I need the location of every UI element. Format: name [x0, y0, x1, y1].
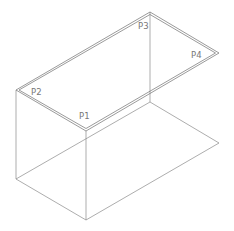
label-p3: P3 — [138, 21, 149, 31]
label-p4: P4 — [191, 50, 202, 60]
bottom-face — [16, 102, 219, 220]
top-rim — [16, 12, 219, 131]
label-p1: P1 — [79, 111, 90, 121]
box-diagram: P1 P2 P3 P4 — [0, 0, 234, 231]
label-p2: P2 — [31, 87, 42, 97]
